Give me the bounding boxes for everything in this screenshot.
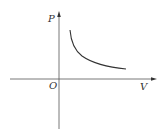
y-axis-label: P	[48, 14, 55, 24]
origin-label: O	[49, 81, 57, 91]
isotherm-curve	[70, 30, 126, 69]
pv-diagram: P O V	[0, 0, 167, 137]
y-axis-arrow-icon	[57, 11, 61, 17]
x-axis-arrow-icon	[151, 77, 157, 81]
x-axis-label: V	[140, 82, 147, 92]
pv-diagram-canvas	[0, 0, 167, 137]
